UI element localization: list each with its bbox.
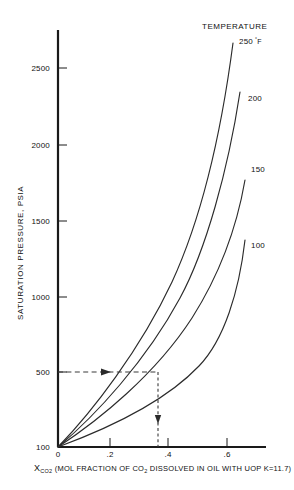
y-tick-label-1000: 1000 xyxy=(24,293,50,302)
curve-label-200: 200 xyxy=(248,94,262,103)
arrow-down-icon xyxy=(155,415,161,424)
x-axis-ticks xyxy=(110,438,227,447)
x-tick-label-0-4: .4 xyxy=(164,450,171,459)
y-axis-ticks xyxy=(58,68,67,372)
curve-label-250: 250 °F xyxy=(239,36,262,46)
y-tick-label-2500: 2500 xyxy=(24,64,50,73)
degree-fahrenheit-icon: °F xyxy=(253,38,262,45)
curve-150f xyxy=(58,180,245,447)
y-axis-title: SATURATION PRESSURE, PSIA xyxy=(16,186,25,320)
x-axis-title-variable-sub2: 2 xyxy=(49,468,52,474)
x-axis-title: XCO2 (MOL FRACTION OF CO2 DISSOLVED IN O… xyxy=(34,463,291,474)
x-axis-title-variable-sub: CO xyxy=(40,468,49,474)
x-tick-label-0-6: .6 xyxy=(223,450,230,459)
curve-label-250-value: 250 xyxy=(239,37,253,46)
saturation-pressure-chart: 2500 2000 1500 1000 500 100 0 .2 .4 .6 S… xyxy=(0,0,294,490)
y-tick-label-1500: 1500 xyxy=(24,217,50,226)
x-axis-title-rest-b: DISSOLVED IN OIL WITH UOP K=11.7) xyxy=(147,464,291,473)
x-tick-label-0: 0 xyxy=(56,450,61,459)
curve-200f xyxy=(58,92,240,447)
curve-label-150: 150 xyxy=(251,165,265,174)
y-tick-label-500: 500 xyxy=(24,368,50,377)
y-tick-label-2000: 2000 xyxy=(24,141,50,150)
curve-label-100: 100 xyxy=(251,241,265,250)
chart-canvas xyxy=(0,0,294,490)
legend-title: TEMPERATURE xyxy=(202,22,267,31)
curve-250f xyxy=(58,43,233,447)
x-axis-title-rest-a: (MOL FRACTION OF CO xyxy=(55,464,144,473)
x-tick-label-0-2: .2 xyxy=(106,450,113,459)
y-tick-label-100: 100 xyxy=(24,443,50,452)
arrow-right-icon xyxy=(101,369,111,376)
